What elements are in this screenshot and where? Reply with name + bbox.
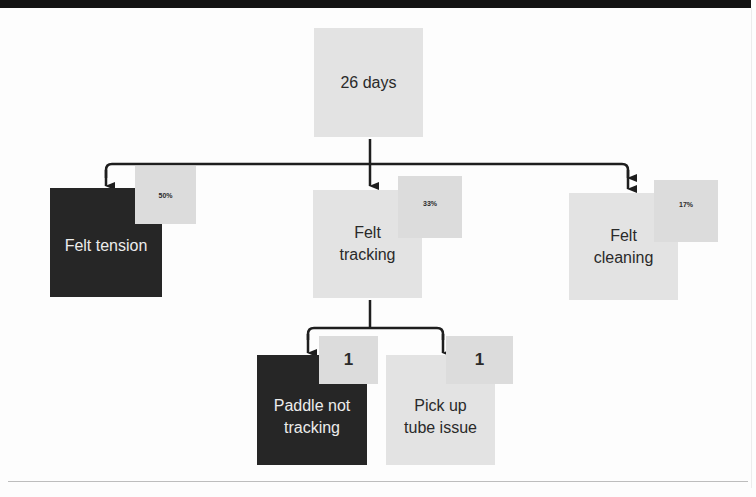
node-label: Felt tension: [65, 235, 148, 257]
node-label: Felt cleaning: [594, 225, 654, 269]
root-label: 26 days: [340, 72, 396, 94]
root-node[interactable]: 26 days: [314, 28, 423, 137]
node-label: Pick up tube issue: [404, 395, 477, 439]
node-label: Felt tracking: [339, 222, 395, 266]
count-badge: 1: [319, 336, 378, 384]
count-badge: 1: [446, 336, 513, 384]
bottom-divider: [8, 481, 748, 482]
node-label: Paddle not tracking: [274, 395, 351, 439]
percent-badge: 33%: [398, 176, 462, 238]
percent-badge: 17%: [654, 180, 718, 242]
percent-badge: 50%: [135, 166, 196, 224]
